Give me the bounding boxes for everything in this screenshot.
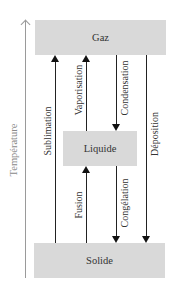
state-label-liquid: Liquide <box>84 143 117 154</box>
state-box-liquid: Liquide <box>63 131 137 166</box>
state-label-gas: Gaz <box>92 32 109 43</box>
congelation-arrowhead-icon <box>112 236 120 243</box>
deposition-label: Déposition <box>149 112 160 156</box>
congelation-arrow-line <box>116 166 117 237</box>
state-label-solid: Solide <box>86 255 113 266</box>
vaporisation-arrowhead-icon <box>82 55 90 62</box>
condensation-arrow-line <box>116 55 117 125</box>
state-box-gas: Gaz <box>35 20 166 55</box>
condensation-label: Condensation <box>119 61 130 116</box>
sublimation-arrowhead-icon <box>51 55 59 62</box>
congelation-label: Congélation <box>119 179 130 228</box>
vaporisation-arrow-line <box>86 61 87 131</box>
fusion-arrow-line <box>86 172 87 243</box>
condensation-arrowhead-icon <box>112 124 120 131</box>
fusion-label: Fusion <box>73 191 84 218</box>
state-box-solid: Solide <box>34 243 165 278</box>
sublimation-label: Sublimation <box>42 107 53 156</box>
vaporisation-label: Vaporisation <box>73 65 84 116</box>
temperature-axis-label: Température <box>8 124 19 177</box>
temperature-axis-arrowhead-icon <box>21 20 31 30</box>
sublimation-arrow-line <box>55 61 56 243</box>
temperature-axis-line <box>25 21 26 278</box>
deposition-arrowhead-icon <box>142 236 150 243</box>
fusion-arrowhead-icon <box>82 166 90 173</box>
deposition-arrow-line <box>146 55 147 237</box>
